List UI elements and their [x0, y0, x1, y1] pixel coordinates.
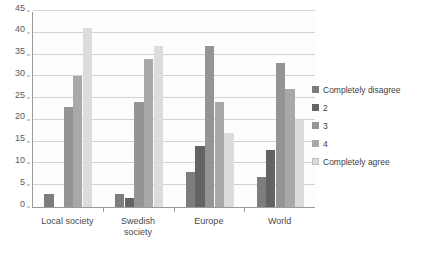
- y-tick-label: 30: [15, 68, 25, 77]
- bar: [83, 28, 92, 207]
- legend: Completely disagree234Completely agree: [312, 82, 429, 172]
- bar: [115, 194, 124, 207]
- legend-swatch-icon: [312, 122, 319, 129]
- legend-swatch-icon: [312, 158, 319, 165]
- bar: [195, 146, 204, 207]
- y-tick-label: 5: [20, 177, 25, 186]
- legend-item[interactable]: 3: [312, 118, 429, 133]
- legend-item[interactable]: 4: [312, 136, 429, 151]
- x-tick-label: Swedish society: [103, 216, 174, 238]
- legend-swatch-icon: [312, 140, 319, 147]
- x-tick-mark: [103, 208, 104, 212]
- x-axis: Local societySwedish societyEuropeWorld: [32, 208, 315, 254]
- y-tick-label: 10: [15, 155, 25, 164]
- bar: [205, 46, 214, 207]
- bar: [215, 102, 224, 207]
- plot-area: [32, 12, 315, 208]
- x-tick-mark: [174, 208, 175, 212]
- y-tick-mark: [27, 141, 30, 142]
- legend-label: 3: [323, 121, 328, 131]
- x-tick-label: Local society: [32, 216, 103, 227]
- y-tick-mark: [27, 207, 30, 208]
- x-tick-label: Europe: [174, 216, 245, 227]
- bar: [44, 194, 53, 207]
- y-tick-mark: [27, 98, 30, 99]
- legend-label: Completely disagree: [323, 85, 400, 95]
- gridline: [33, 10, 315, 11]
- bar: [144, 59, 153, 207]
- legend-label: 2: [323, 103, 328, 113]
- legend-item[interactable]: Completely agree: [312, 154, 429, 169]
- legend-label: 4: [323, 139, 328, 149]
- y-axis: 051015202530354045: [0, 12, 30, 208]
- y-tick-label: 25: [15, 90, 25, 99]
- bar: [64, 107, 73, 207]
- bar: [224, 133, 233, 207]
- y-tick-mark: [27, 76, 30, 77]
- bars-layer: [33, 12, 315, 207]
- y-tick-label: 45: [15, 3, 25, 12]
- legend-label: Completely agree: [323, 157, 390, 167]
- y-tick-mark: [27, 163, 30, 164]
- y-tick-mark: [27, 119, 30, 120]
- bar: [276, 63, 285, 207]
- y-tick-label: 40: [15, 25, 25, 34]
- bar: [125, 198, 134, 207]
- bar: [73, 76, 82, 207]
- bar: [285, 89, 294, 207]
- bar-chart: 051015202530354045 Local societySwedish …: [0, 0, 429, 260]
- y-tick-label: 0: [20, 199, 25, 208]
- bar: [186, 172, 195, 207]
- y-tick-mark: [27, 11, 30, 12]
- bar: [134, 102, 143, 207]
- legend-item[interactable]: Completely disagree: [312, 82, 429, 97]
- legend-swatch-icon: [312, 86, 319, 93]
- legend-swatch-icon: [312, 104, 319, 111]
- bar: [257, 177, 266, 207]
- bar: [154, 46, 163, 207]
- y-tick-mark: [27, 32, 30, 33]
- x-tick-label: World: [244, 216, 315, 227]
- y-tick-label: 35: [15, 47, 25, 56]
- x-tick-mark: [244, 208, 245, 212]
- y-tick-mark: [27, 185, 30, 186]
- y-tick-label: 15: [15, 134, 25, 143]
- bar: [266, 150, 275, 207]
- bar: [295, 120, 304, 207]
- y-tick-mark: [27, 54, 30, 55]
- legend-item[interactable]: 2: [312, 100, 429, 115]
- y-tick-label: 20: [15, 112, 25, 121]
